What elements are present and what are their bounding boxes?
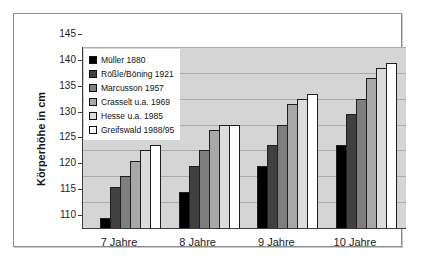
y-tick-label: 115 — [44, 183, 76, 195]
bar — [229, 125, 240, 228]
legend-item: Marcusson 1957 — [89, 81, 174, 95]
x-category-label: 7 Jahre — [84, 236, 154, 249]
legend-item: Greifswald 1988/95 — [89, 123, 174, 137]
y-tick-label: 140 — [44, 54, 76, 66]
figure-frame: Körperhöhe in cm 14514013513012512011511… — [13, 13, 402, 247]
y-tick-label: 125 — [44, 131, 76, 143]
y-tick-label: 110 — [44, 209, 76, 221]
x-category-label: 10 Jahre — [320, 236, 390, 249]
legend: Müller 1880Rößle/Böning 1921Marcusson 19… — [84, 49, 180, 140]
x-category-label: 8 Jahre — [163, 236, 233, 249]
x-category-label: 9 Jahre — [241, 236, 311, 249]
bar — [307, 94, 318, 228]
bar — [150, 145, 161, 228]
legend-label: Müller 1880 — [101, 53, 145, 67]
y-tick-mark — [78, 34, 82, 35]
legend-label: Hesse u.a. 1985 — [101, 109, 163, 123]
bar — [386, 63, 397, 228]
y-tick-label: 135 — [44, 80, 76, 92]
legend-item: Rößle/Böning 1921 — [89, 67, 174, 81]
y-tick-label: 120 — [44, 157, 76, 169]
chart-figure: Körperhöhe in cm 14514013513012512011511… — [0, 0, 422, 264]
legend-swatch-icon — [89, 126, 97, 134]
legend-swatch-icon — [89, 84, 97, 92]
legend-label: Rößle/Böning 1921 — [101, 67, 174, 81]
legend-swatch-icon — [89, 112, 97, 120]
bar-cluster — [179, 47, 245, 228]
legend-item: Hesse u.a. 1985 — [89, 109, 174, 123]
legend-label: Crasselt u.a. 1969 — [101, 95, 170, 109]
legend-label: Greifswald 1988/95 — [101, 123, 174, 137]
y-tick-label: 145 — [44, 28, 76, 40]
bar-cluster — [336, 47, 402, 228]
legend-item: Müller 1880 — [89, 53, 174, 67]
legend-label: Marcusson 1957 — [101, 81, 164, 95]
y-tick-label: 130 — [44, 106, 76, 118]
legend-swatch-icon — [89, 56, 97, 64]
legend-swatch-icon — [89, 98, 97, 106]
bar-cluster — [257, 47, 323, 228]
legend-item: Crasselt u.a. 1969 — [89, 95, 174, 109]
legend-swatch-icon — [89, 70, 97, 78]
